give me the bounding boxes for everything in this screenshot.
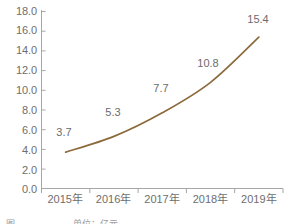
axes: [42, 10, 284, 193]
caption-text: 单位：亿元: [15, 219, 118, 224]
x-tick-label: 2016年: [89, 193, 137, 205]
caption-mark: 图: [0, 219, 15, 224]
y-axis-ticks: [42, 12, 46, 189]
line-chart: 18.0 16.0 14.0 12.0 10.0 8.0 6.0 4.0 2.0…: [0, 0, 290, 224]
point-value-label: 5.3: [105, 107, 120, 118]
plot-area: [0, 0, 290, 224]
point-value-label: 10.8: [197, 58, 218, 69]
x-tick-label: 2018年: [186, 193, 234, 205]
x-tick-label: 2019年: [235, 193, 283, 205]
point-value-label: 15.4: [247, 14, 268, 25]
figure-caption: 图单位：亿元: [0, 219, 290, 224]
x-tick-label: 2017年: [138, 193, 186, 205]
x-axis-tick-labels: 2015年 2016年 2017年 2018年 2019年: [41, 193, 283, 205]
data-series-line: [66, 37, 259, 152]
x-tick-label: 2015年: [41, 193, 89, 205]
point-value-label: 7.7: [153, 83, 168, 94]
point-value-label: 3.7: [56, 127, 71, 138]
